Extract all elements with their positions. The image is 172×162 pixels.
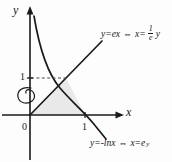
fraction-one-over-e: 1 e (148, 25, 154, 42)
ellipse-scribble-annotation (18, 88, 35, 104)
line-equation-rhs-suffix: y (156, 30, 160, 40)
fraction-numerator: 1 (148, 25, 154, 33)
curve-equation-rhs-base: x=e (130, 139, 145, 149)
curve-equation-label: y=-lnx ⇔ x=ey (90, 139, 149, 149)
math-figure: y x 0 1 1 y=ex ⇔ x= 1 e y y=-lnx ⇔ x=ey (0, 0, 172, 162)
iff-icon-2: ⇔ (116, 139, 129, 148)
x-axis-label: x (126, 106, 131, 118)
plot-canvas (0, 0, 172, 162)
x-axis-arrow (116, 112, 125, 119)
y-axis-arrow (27, 6, 34, 15)
line-equation-lhs: y=ex (101, 30, 120, 40)
curve-equation-lhs: y=-lnx (90, 139, 115, 149)
y-tick-label-1: 1 (20, 72, 25, 82)
line-equation-label: y=ex ⇔ x= 1 e y (101, 26, 160, 43)
line-equation-rhs-prefix: x= (135, 30, 146, 40)
origin-label: 0 (22, 122, 27, 132)
iff-icon: ⇔ (121, 30, 134, 39)
y-axis-label: y (13, 4, 18, 16)
fraction-denominator: e (148, 33, 154, 42)
x-tick-label-1: 1 (82, 122, 87, 132)
